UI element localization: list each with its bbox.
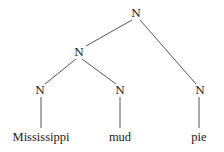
- node-mid-n: N: [74, 47, 84, 58]
- leaf-mississippi: Mississippi: [13, 131, 70, 144]
- leaf-mud: mud: [109, 131, 131, 144]
- node-center-n: N: [115, 85, 125, 96]
- node-left-n: N: [35, 85, 45, 96]
- edge-mid-center: [82, 59, 116, 84]
- edge-mid-left: [45, 59, 76, 84]
- leaf-pie: pie: [191, 131, 206, 144]
- noun-compound-tree: N N N N N Mississippi mud pie: [0, 0, 224, 152]
- edge-root-right: [140, 20, 196, 84]
- node-right-n: N: [195, 85, 205, 96]
- node-root-n: N: [131, 8, 141, 19]
- edge-root-mid: [86, 20, 132, 46]
